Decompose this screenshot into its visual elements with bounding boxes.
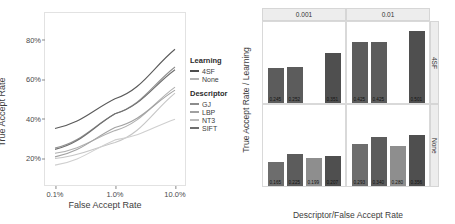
facet-grid: 0.0010.010.00.10.20.30.40.50.2450.2520.3… [262,8,439,187]
bar[interactable]: 0.225LBP [287,154,303,186]
facet-panel: 0.00.10.20.30.40.50.2450.2520.351 [262,21,346,104]
legend-key-icon [190,111,199,113]
facet-strip-col: 0.01 [346,8,430,21]
left-y-axis-title: True Accept Rate [0,77,7,146]
left-x-tick: 10.0% [164,190,185,199]
left-y-tick: 40% [26,114,41,123]
left-lines [45,13,185,185]
bar-value-label: 0.165 [270,179,282,185]
legend-key-icon [190,119,199,121]
bar-value-label: 0.351 [327,96,339,102]
bar-value-label: 0.293 [354,179,366,185]
bar-group: 0.165GJ0.225LBP0.199NT30.207SIFT [263,105,345,186]
legend-key-icon [190,70,199,72]
bar-value-label: 0.245 [270,96,282,102]
bar[interactable]: 0.199NT3 [306,158,322,186]
bar[interactable]: 0.280NT3 [390,146,406,186]
bar[interactable]: 0.501 [409,31,425,103]
bar-value-label: 0.425 [354,96,366,102]
bar[interactable]: 0.293GJ [352,144,368,186]
facet-panel: 0.293GJ0.340LBP0.280NT30.356SIFT [346,104,430,187]
bar-value-label: 0.356 [411,179,423,185]
legend-key-icon [190,127,199,129]
bar[interactable]: 0.351 [325,53,341,103]
figure-container: True Accept Rate False Accept Rate 20%40… [0,0,455,224]
legend-item-label: SIFT [202,125,217,132]
left-plot-area: 20%40%60%80%0.1%1.0%10.0% [44,12,186,186]
legend-item[interactable]: GJ [190,100,238,108]
bar-value-label: 0.225 [289,179,301,185]
left-y-tick: 60% [26,75,41,84]
line-series [55,67,175,148]
bar-value-label: 0.501 [411,96,423,102]
facet-strip-row: 4SF [430,21,439,104]
legend-item-label: 4SF [202,68,215,75]
bar[interactable]: 0.425 [352,42,368,103]
legend-item-label: LBP [202,109,215,116]
legend-item[interactable]: None [190,75,238,83]
legend-key-icon [190,78,199,80]
bar[interactable]: 0.252 [287,67,303,103]
left-legend: Learning 4SFNone Descriptor GJLBPNT3SIFT [190,56,238,132]
legend-group-learning: 4SFNone [190,67,238,83]
line-series [55,49,175,128]
left-y-tick: 20% [26,154,41,163]
bar[interactable]: 0.207SIFT [325,156,341,186]
bar-value-label: 0.340 [373,179,385,185]
legend-title-learning: Learning [190,56,238,65]
bar-value-label: 0.280 [392,179,404,185]
bar[interactable]: 0.340LBP [371,137,387,186]
bar[interactable]: 0.245 [268,68,284,103]
bar-group: 0.4250.4250.501 [347,22,429,103]
left-x-tick: 1.0% [106,190,123,199]
bar-value-label: 0.207 [327,179,339,185]
legend-key-icon [190,103,199,105]
facet-panel: 0.4250.4250.501 [346,21,430,104]
right-y-axis-title: True Accept Rate / Learning [241,47,251,153]
left-x-axis-title: False Accept Rate [68,200,141,210]
bar[interactable]: 0.356SIFT [409,135,425,186]
bar-group: 0.293GJ0.340LBP0.280NT30.356SIFT [347,105,429,186]
legend-item[interactable]: SIFT [190,124,238,132]
legend-item[interactable]: 4SF [190,67,238,75]
left-y-tick: 80% [26,35,41,44]
bar-value-label: 0.252 [289,96,301,102]
bar-group: 0.2450.2520.351 [263,22,345,103]
bar-value-label: 0.425 [373,96,385,102]
left-x-tick: 0.1% [46,190,63,199]
facet-strip-row: None [430,104,439,187]
legend-item-label: GJ [202,101,211,108]
facet-corner [430,8,439,21]
bar-value-label: 0.199 [308,179,320,185]
facet-panel: 0.00.10.20.30.40.50.165GJ0.225LBP0.199NT… [262,104,346,187]
roc-line-chart: True Accept Rate False Accept Rate 20%40… [0,0,240,224]
bar[interactable]: 0.165GJ [268,162,284,186]
legend-title-descriptor: Descriptor [190,89,238,98]
bar[interactable]: 0.425 [371,42,387,103]
legend-item[interactable]: LBP [190,108,238,116]
right-x-axis-title: Descriptor/False Accept Rate [293,210,403,220]
legend-group-descriptor: GJLBPNT3SIFT [190,100,238,132]
legend-item-label: None [202,76,219,83]
legend-item[interactable]: NT3 [190,116,238,124]
line-series [55,70,175,150]
legend-item-label: NT3 [202,117,215,124]
facet-strip-col: 0.001 [262,8,346,21]
